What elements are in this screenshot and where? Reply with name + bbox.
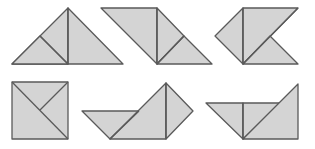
- figure-3: [215, 8, 298, 64]
- triangle-piece: [206, 103, 243, 139]
- figure-6: [206, 84, 298, 139]
- figure-2: [101, 8, 212, 64]
- triangle-piece: [166, 83, 193, 139]
- figure-1: [12, 8, 123, 64]
- figure-5: [82, 83, 193, 139]
- triangle-piece: [215, 8, 243, 64]
- tangram-diagram: [0, 0, 315, 149]
- figure-4: [12, 82, 68, 139]
